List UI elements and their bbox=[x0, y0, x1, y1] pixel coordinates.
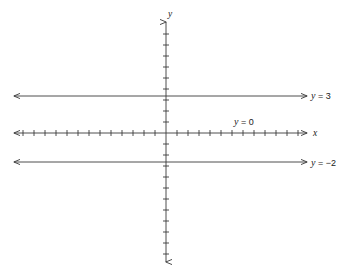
label-y-equals-3-rel: = bbox=[318, 91, 323, 101]
label-y-equals-0-rel: = bbox=[241, 117, 246, 127]
label-y-equals-3: y=3 bbox=[310, 90, 331, 101]
x-axis bbox=[14, 130, 307, 136]
label-y-equals-3-value: 3 bbox=[326, 91, 331, 101]
label-y-equals-minus-2-var: y bbox=[310, 157, 316, 168]
y-axis-name-label: y bbox=[167, 9, 173, 19]
label-y-equals-0-value: 0 bbox=[249, 117, 254, 127]
label-y-equals-minus-2-value: −2 bbox=[326, 158, 336, 168]
coordinate-plane-figure: y x y=3 y=0 y=−2 bbox=[0, 0, 356, 276]
label-y-equals-0: y=0 bbox=[233, 116, 254, 127]
label-y-equals-0-var: y bbox=[233, 116, 239, 127]
y-axis-ticks bbox=[163, 34, 169, 254]
y-axis bbox=[163, 22, 169, 262]
graph-canvas: y x y=3 y=0 y=−2 bbox=[0, 0, 356, 276]
label-y-equals-3-var: y bbox=[310, 90, 316, 101]
label-y-equals-minus-2: y=−2 bbox=[310, 157, 336, 168]
label-y-equals-minus-2-rel: = bbox=[318, 158, 323, 168]
x-axis-name-label: x bbox=[312, 128, 318, 138]
